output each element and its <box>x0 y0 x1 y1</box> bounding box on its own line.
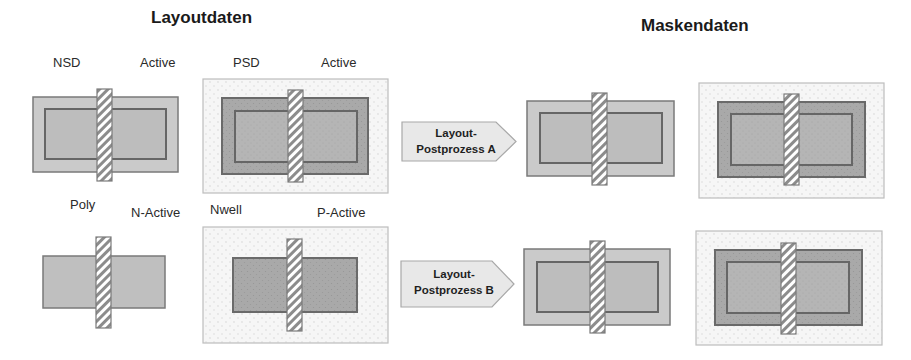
layout-fig-nwell-pactive <box>203 227 388 343</box>
arrow-a-line2: Postprozess A <box>402 141 510 157</box>
title-maskendaten: Maskendaten <box>641 16 749 36</box>
label-nsd: NSD <box>53 55 80 70</box>
title-layoutdaten: Layoutdaten <box>151 8 252 28</box>
mask-fig-a-p <box>699 83 884 198</box>
arrow-b-line1: Layout- <box>401 266 507 282</box>
arrow-a-text: Layout- Postprozess A <box>402 125 510 157</box>
mask-fig-b-n <box>524 241 670 333</box>
mask-fig-a-n <box>527 93 674 185</box>
label-nwell: Nwell <box>210 202 242 217</box>
mask-fig-b-p <box>696 231 882 345</box>
label-p-active: P-Active <box>317 205 365 220</box>
label-psd: PSD <box>233 55 260 70</box>
label-active-2: Active <box>321 55 356 70</box>
layout-fig-poly-nactive <box>43 237 165 328</box>
arrow-a-line1: Layout- <box>402 125 510 141</box>
diagram-canvas <box>0 0 911 360</box>
label-n-active: N-Active <box>131 205 180 220</box>
layout-fig-nsd <box>33 89 178 181</box>
layout-fig-psd <box>203 79 388 193</box>
label-poly: Poly <box>70 197 95 212</box>
arrow-b-line2: Postprozess B <box>401 282 507 298</box>
label-active-1: Active <box>140 55 175 70</box>
arrow-b-text: Layout- Postprozess B <box>401 266 507 298</box>
